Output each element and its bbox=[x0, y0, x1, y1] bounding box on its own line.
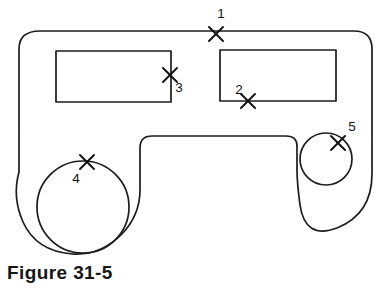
marker-1-label: 1 bbox=[217, 6, 225, 21]
marker-2: 2 bbox=[235, 82, 255, 108]
part-outline-path bbox=[16, 31, 372, 254]
marker-5-label: 5 bbox=[348, 119, 356, 134]
marker-3: 3 bbox=[163, 68, 183, 95]
marker-4-label: 4 bbox=[72, 171, 80, 186]
figure-caption: Figure 31-5 bbox=[7, 262, 113, 284]
technical-drawing-canvas: 12345 bbox=[0, 0, 390, 291]
marker-2-label: 2 bbox=[235, 82, 243, 97]
left-rectangular-cutout bbox=[56, 51, 171, 102]
figure-container: 12345 Figure 31-5 bbox=[0, 0, 390, 291]
measurement-markers-group: 12345 bbox=[72, 6, 356, 186]
marker-1: 1 bbox=[209, 6, 225, 41]
marker-4: 4 bbox=[72, 155, 94, 186]
marker-3-label: 3 bbox=[175, 80, 183, 95]
small-circular-hole bbox=[300, 133, 352, 185]
large-circular-hole bbox=[37, 161, 129, 253]
